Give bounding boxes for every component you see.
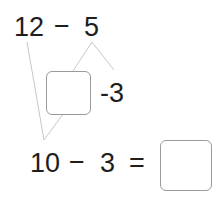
line-twelve-to-ten [27,42,44,140]
top-minuend: 12 [14,14,44,41]
line-five-to-box [73,42,92,71]
split-remainder: -3 [100,80,124,107]
equals-sign: = [129,150,145,177]
line-box-to-ten [44,114,63,140]
bottom-subtrahend: 3 [100,150,115,177]
bottom-operator: − [69,149,85,176]
answer-box[interactable] [160,140,212,191]
bottom-minuend: 10 [30,150,60,177]
line-five-to-minus-three [92,42,114,70]
top-subtrahend: 5 [84,14,99,41]
top-operator: − [54,13,70,40]
blank-split-box[interactable] [46,71,91,115]
